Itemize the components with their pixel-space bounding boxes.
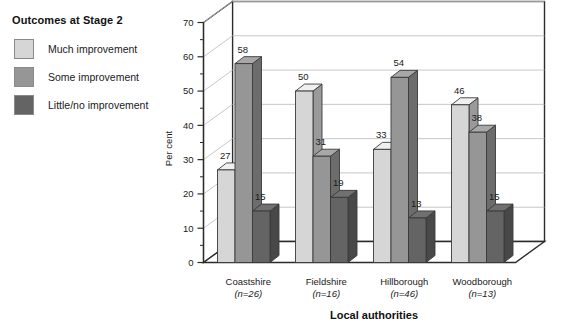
bar-front [331, 197, 349, 262]
category-labels: Coastshire(n=26)Fieldshire(n=16)Hillboro… [226, 276, 512, 299]
bar-value-label: 15 [255, 191, 266, 202]
y-tick-label: 20 [183, 188, 194, 199]
x-category-label: Coastshire [226, 276, 271, 287]
bar-front [374, 149, 392, 262]
x-category-label: Fieldshire [306, 276, 347, 287]
bar-value-label: 38 [471, 112, 482, 123]
bar-front [469, 132, 487, 262]
bar-value-label: 15 [489, 191, 500, 202]
y-tick-label: 60 [183, 51, 194, 62]
bar-value-label: 58 [237, 44, 248, 55]
bar-value-label: 46 [454, 85, 465, 96]
y-tick-label: 50 [183, 85, 194, 96]
bar-front [487, 211, 505, 262]
bar-value-label: 27 [220, 150, 231, 161]
bar-front [313, 156, 331, 262]
y-tick-label: 40 [183, 120, 194, 131]
bar-value-label: 54 [393, 57, 404, 68]
bar-chart-plot: 010203040506070 275815503119335413463815… [0, 0, 570, 322]
y-tick-label: 0 [188, 257, 193, 268]
x-category-n: (n=26) [234, 288, 262, 299]
bar-value-label: 19 [333, 177, 344, 188]
bar-value-label: 13 [411, 198, 422, 209]
x-category-n: (n=13) [468, 288, 496, 299]
bar [409, 211, 436, 263]
bar-front [391, 77, 409, 262]
bar-front [296, 91, 314, 262]
x-category-label: Woodborough [452, 276, 512, 287]
x-category-n: (n=16) [312, 288, 340, 299]
bar [331, 190, 358, 262]
x-axis-title: Local authorities [330, 309, 418, 321]
y-tick-label: 10 [183, 223, 194, 234]
bar-front [235, 64, 253, 263]
bar [253, 204, 280, 262]
y-tick-label: 70 [183, 17, 194, 28]
bar-front [409, 218, 427, 263]
bar-side [348, 190, 357, 262]
chart-svg: 010203040506070 275815503119335413463815… [0, 0, 570, 322]
bar-side [426, 211, 435, 263]
y-tick-label: 30 [183, 154, 194, 165]
bar-front [218, 170, 236, 263]
bar-value-label: 31 [315, 136, 326, 147]
bar-front [253, 211, 271, 262]
bar-value-label: 50 [298, 71, 309, 82]
chart-screenshot: Outcomes at Stage 2 Much improvement Som… [0, 0, 570, 322]
x-category-n: (n=46) [390, 288, 418, 299]
bar-side [504, 204, 513, 262]
y-axis: 010203040506070 [183, 17, 204, 268]
bar-side [270, 204, 279, 262]
x-category-label: Hillborough [380, 276, 428, 287]
y-axis-title: Per cent [163, 130, 174, 166]
bar-value-label: 33 [376, 129, 387, 140]
bar [487, 204, 514, 262]
bar-front [452, 105, 470, 263]
